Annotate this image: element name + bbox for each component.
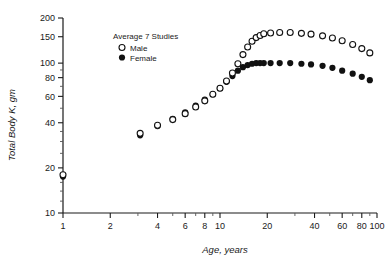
x-tick-label: 1	[60, 221, 65, 231]
x-tick-label: 8	[202, 221, 207, 231]
y-axis-title: Total Body K, gm	[6, 89, 17, 161]
y-tick-label: 20	[45, 163, 55, 173]
data-point-male	[339, 38, 345, 44]
data-point-male	[229, 70, 235, 76]
data-point-male	[359, 46, 365, 52]
data-point-female	[267, 60, 273, 66]
data-point-male	[350, 42, 356, 48]
data-point-female	[298, 61, 304, 67]
data-point-male	[170, 117, 176, 123]
y-tick-label: 60	[45, 92, 55, 102]
data-point-male	[245, 44, 251, 50]
y-tick-label: 10	[45, 208, 55, 218]
x-tick-label: 60	[337, 221, 347, 231]
y-tick-label: 80	[45, 73, 55, 83]
x-tick-label: 6	[183, 221, 188, 231]
data-point-female	[339, 68, 345, 74]
data-point-female	[319, 63, 325, 69]
data-point-male	[182, 111, 188, 117]
data-point-female	[359, 74, 365, 80]
legend-annotation: Average 7 Studies	[113, 32, 178, 41]
data-point-male	[240, 52, 246, 58]
y-tick-label: 40	[45, 118, 55, 128]
data-point-male	[287, 30, 293, 36]
x-axis-title: Age, years	[201, 244, 248, 255]
x-tick-label: 100	[369, 221, 384, 231]
data-point-male	[217, 85, 223, 91]
x-tick-label: 10	[215, 221, 225, 231]
chart-figure: 1020406080100150200124681020406080100 To…	[0, 0, 390, 264]
data-point-male	[268, 30, 274, 36]
data-point-male	[223, 78, 229, 84]
data-point-male	[155, 122, 161, 128]
legend-marker-female	[119, 54, 125, 60]
data-point-female	[287, 60, 293, 66]
data-point-female	[350, 71, 356, 77]
data-point-female	[277, 60, 283, 66]
x-tick-label: 80	[357, 221, 367, 231]
x-tick-label: 20	[262, 221, 272, 231]
y-tick-label: 100	[40, 58, 55, 68]
data-point-male	[60, 172, 66, 178]
x-tick-label: 4	[155, 221, 160, 231]
data-point-male	[235, 61, 241, 67]
data-point-male	[367, 50, 373, 56]
data-point-female	[261, 60, 267, 66]
data-point-male	[137, 130, 143, 136]
y-tick-label: 200	[40, 13, 55, 23]
data-point-male	[320, 33, 326, 39]
data-point-male	[193, 104, 199, 110]
legend-label-male: Male	[130, 44, 148, 53]
data-point-male	[298, 30, 304, 36]
data-point-male	[202, 98, 208, 104]
data-point-male	[210, 91, 216, 97]
x-tick-label: 2	[108, 221, 113, 231]
legend-label-female: Female	[130, 54, 157, 63]
data-point-male	[308, 31, 314, 37]
y-tick-label: 150	[40, 32, 55, 42]
x-tick-label: 40	[310, 221, 320, 231]
data-point-male	[261, 31, 267, 37]
data-point-male	[277, 30, 283, 36]
chart-svg: 1020406080100150200124681020406080100 To…	[0, 0, 390, 264]
data-point-female	[308, 61, 314, 67]
data-point-female	[329, 65, 335, 71]
data-point-female	[367, 77, 373, 83]
data-point-male	[329, 35, 335, 41]
